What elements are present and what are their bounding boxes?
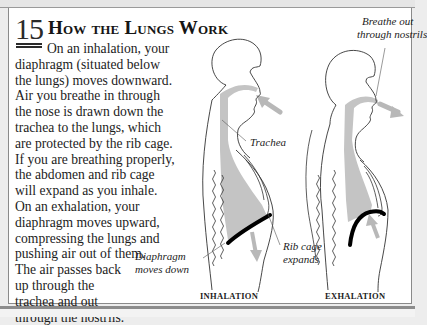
label-diaphragm: Diaphragm <box>135 250 186 263</box>
inhalation-figure <box>203 39 280 292</box>
spine-inhalation <box>203 100 212 290</box>
label-trachea: Trachea <box>250 136 286 149</box>
spine-exhalation <box>320 124 330 290</box>
exhalation-figure <box>306 48 404 292</box>
lung-shape-inhalation <box>220 85 268 240</box>
label-breathe-out: Breathe out <box>362 15 413 28</box>
caption-exhalation: EXHALATION <box>325 291 385 301</box>
caption-inhalation: INHALATION <box>200 291 258 301</box>
label-expands: expands <box>283 253 319 266</box>
label-through-nostrils: through nostrils <box>357 28 427 41</box>
label-moves-down: moves down <box>135 263 189 276</box>
bottom-margin <box>0 309 415 317</box>
label-rib-cage: Rib cage <box>283 240 322 253</box>
